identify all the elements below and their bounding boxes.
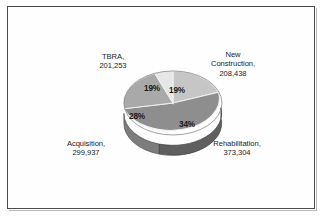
pie-top-face [123, 71, 219, 130]
pie-label-rehabilitation: Rehabilitation, 373,304 [196, 139, 278, 158]
pie-chart-figure: 19% 19% 34% 28% TBRA, 201,253 New Constr… [0, 0, 326, 221]
pie-label-acquisition: Acquisition, 299,937 [46, 139, 126, 158]
pie-percent-rehabilitation: 34% [174, 120, 200, 129]
pie-percent-new-construction: 19% [164, 86, 190, 95]
pie-label-tbra: TBRA, 201,253 [78, 52, 148, 71]
pie-percent-tbra: 19% [139, 84, 165, 93]
pie-percent-acquisition: 28% [124, 112, 150, 121]
pie-label-new-construction: New Construction, 208,438 [194, 50, 272, 78]
